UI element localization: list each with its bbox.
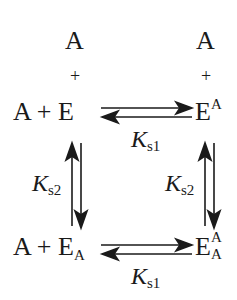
k-subscript: s2	[181, 182, 194, 198]
k-symbol: K	[131, 263, 147, 289]
constant-ks2-left: Ks2	[32, 171, 61, 198]
k-symbol: K	[165, 170, 181, 196]
k-subscript: s1	[147, 138, 160, 154]
equilibrium-arrows	[0, 0, 237, 300]
k-subscript: s2	[48, 182, 61, 198]
constant-ks1-bottom: Ks1	[131, 264, 160, 291]
constant-ks2-right: Ks2	[165, 171, 194, 198]
k-symbol: K	[32, 170, 48, 196]
k-symbol: K	[131, 126, 147, 152]
constant-ks1-top: Ks1	[131, 127, 160, 154]
k-subscript: s1	[147, 275, 160, 291]
